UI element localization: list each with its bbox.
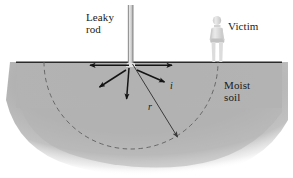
label-moist-soil-line2: soil: [224, 91, 240, 103]
rod-shaft: [128, 5, 133, 63]
label-moist-soil: Moistsoil: [224, 79, 250, 103]
victim-right-leg: [219, 42, 223, 62]
victim-neck: [214, 25, 221, 27]
label-leaky-rod-line2: rod: [86, 23, 101, 35]
leaky-rod: [126, 5, 136, 67]
label-leaky-rod-line1: Leaky: [86, 11, 114, 23]
label-leaky-rod: Leakyrod: [86, 11, 114, 35]
label-radius-r: r: [148, 101, 152, 113]
label-victim: Victim: [228, 20, 259, 32]
physics-figure-grounding-rod: Leakyrod Victim Moistsoil i r: [0, 0, 293, 178]
label-moist-soil-line1: Moist: [224, 79, 250, 91]
victim-left-leg: [212, 42, 216, 62]
victim-figure: [210, 16, 225, 62]
label-current-i: i: [170, 80, 173, 92]
victim-head: [213, 16, 221, 25]
